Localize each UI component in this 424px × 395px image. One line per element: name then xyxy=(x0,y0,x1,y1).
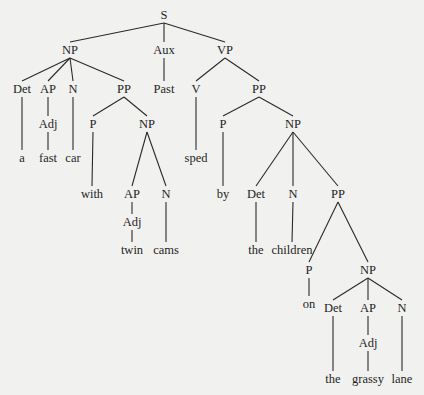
tree-edge xyxy=(223,97,259,116)
tree-edge xyxy=(196,58,225,81)
tree-node-n: N xyxy=(288,187,297,201)
tree-node-vp: VP xyxy=(217,43,233,57)
tree-node-adj: Adj xyxy=(39,117,58,131)
tree-node-adj: Adj xyxy=(123,215,142,229)
tree-node-pp: PP xyxy=(252,82,266,96)
tree-labels: SNPAuxVPDetAPNPPPastVPPaAdjfastcarPNPwit… xyxy=(13,8,413,386)
tree-edge xyxy=(93,97,124,116)
tree-edge xyxy=(164,23,225,42)
tree-node-n: N xyxy=(161,187,170,201)
tree-node-n: N xyxy=(397,301,406,315)
tree-leaf-word: children xyxy=(272,243,314,257)
tree-node-ap: AP xyxy=(124,187,140,201)
tree-edge xyxy=(70,58,124,81)
tree-node-adj: Adj xyxy=(359,336,378,350)
tree-node-p: P xyxy=(220,117,227,131)
tree-node-aux: Aux xyxy=(153,43,175,57)
tree-edge xyxy=(338,202,368,262)
tree-node-s: S xyxy=(161,8,168,22)
tree-leaf-word: car xyxy=(65,151,81,165)
tree-node-p: P xyxy=(306,263,313,277)
tree-node-pp: PP xyxy=(117,82,131,96)
tree-leaf-word: fast xyxy=(39,151,58,165)
tree-node-v: V xyxy=(191,82,200,96)
tree-edge xyxy=(48,58,70,81)
tree-leaf-word: the xyxy=(248,243,264,257)
tree-edge xyxy=(70,58,73,81)
tree-edge xyxy=(70,23,164,42)
tree-node-ap: AP xyxy=(360,301,376,315)
tree-node-pp: PP xyxy=(331,187,345,201)
tree-edge xyxy=(256,132,293,186)
tree-node-det: Det xyxy=(324,301,343,315)
tree-edge xyxy=(225,58,259,81)
syntax-tree-diagram: SNPAuxVPDetAPNPPPastVPPaAdjfastcarPNPwit… xyxy=(0,0,424,395)
tree-leaf-word: the xyxy=(325,372,341,386)
tree-node-np: NP xyxy=(285,117,301,131)
tree-leaf-word: lane xyxy=(392,372,413,386)
tree-leaf-word: by xyxy=(217,187,230,201)
tree-node-det: Det xyxy=(13,82,32,96)
tree-leaf-word: cams xyxy=(153,243,179,257)
tree-edge xyxy=(132,132,147,186)
tree-node-p: P xyxy=(90,117,97,131)
tree-edge xyxy=(147,132,166,186)
tree-node-ap: AP xyxy=(40,82,56,96)
tree-edge xyxy=(259,97,293,116)
tree-leaf-word: on xyxy=(303,297,316,311)
tree-leaf-word: twin xyxy=(121,243,144,257)
tree-leaf-word: sped xyxy=(185,151,209,165)
tree-edge xyxy=(292,202,293,242)
tree-edge xyxy=(92,132,93,186)
tree-leaf-word: a xyxy=(19,151,25,165)
tree-leaf-word: with xyxy=(81,187,104,201)
syntax-tree-svg: SNPAuxVPDetAPNPPPastVPPaAdjfastcarPNPwit… xyxy=(0,0,424,395)
tree-node-past: Past xyxy=(154,82,175,96)
tree-edge xyxy=(124,97,147,116)
tree-edge xyxy=(333,278,368,300)
tree-edge xyxy=(22,58,70,81)
tree-node-det: Det xyxy=(247,187,266,201)
tree-node-n: N xyxy=(68,82,77,96)
tree-edges xyxy=(22,23,402,371)
tree-node-np: NP xyxy=(62,43,78,57)
tree-node-np: NP xyxy=(139,117,155,131)
tree-leaf-word: grassy xyxy=(352,372,385,386)
tree-edge xyxy=(368,278,402,300)
tree-node-np: NP xyxy=(360,263,376,277)
tree-edge xyxy=(309,202,338,262)
tree-edge xyxy=(293,132,338,186)
